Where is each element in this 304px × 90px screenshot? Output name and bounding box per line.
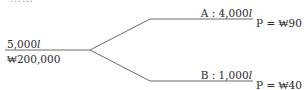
- product-a-price-label: P = ₩90: [256, 17, 302, 29]
- product-b-price-label: P = ₩40: [256, 79, 302, 90]
- liter-unit: l: [249, 7, 252, 19]
- product-a-quantity: A : 4,000: [201, 7, 249, 19]
- joint-quantity-label: 5,000l: [7, 38, 40, 50]
- liter-unit: l: [37, 38, 40, 50]
- product-b-quantity-label: B : 1,000l: [201, 69, 252, 81]
- joint-cost-label: ₩200,000: [7, 53, 60, 65]
- liter-unit: l: [249, 69, 252, 81]
- branch-a-line: [90, 19, 253, 50]
- product-a-quantity-label: A : 4,000l: [201, 7, 252, 19]
- joint-quantity-value: 5,000: [7, 38, 37, 50]
- product-b-quantity: B : 1,000: [201, 69, 249, 81]
- split-off-diagram-lines: [0, 0, 304, 90]
